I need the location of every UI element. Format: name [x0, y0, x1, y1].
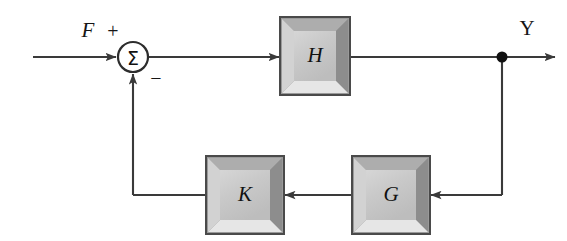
block-h-bevel-right — [336, 19, 348, 93]
block-g[interactable]: G — [352, 156, 430, 234]
block-g-bevel-left — [354, 158, 366, 232]
block-g-bevel-right — [416, 158, 428, 232]
signal-label-f: F — [81, 18, 95, 42]
block-g-label: G — [383, 182, 398, 206]
sigma-icon: Σ — [127, 47, 139, 69]
takeoff-node-dot — [497, 52, 508, 63]
signal-label-y: Y — [519, 16, 534, 40]
diagram-svg: Σ + − H K — [0, 0, 567, 241]
block-h[interactable]: H — [280, 17, 350, 95]
block-k[interactable]: K — [206, 156, 284, 234]
block-diagram-canvas: Σ + − H K — [0, 0, 567, 241]
minus-sign-label: − — [150, 67, 161, 89]
block-h-bevel-left — [282, 19, 294, 93]
plus-sign-label: + — [107, 20, 118, 42]
block-k-bevel-bottom — [208, 220, 282, 232]
block-k-bevel-right — [270, 158, 282, 232]
block-g-bevel-bottom — [354, 220, 428, 232]
block-g-bevel-top — [354, 158, 428, 170]
block-k-bevel-top — [208, 158, 282, 170]
block-h-label: H — [306, 43, 324, 67]
block-k-bevel-left — [208, 158, 220, 232]
block-k-label: K — [237, 182, 253, 206]
summing-junction[interactable]: Σ + − — [107, 20, 161, 89]
